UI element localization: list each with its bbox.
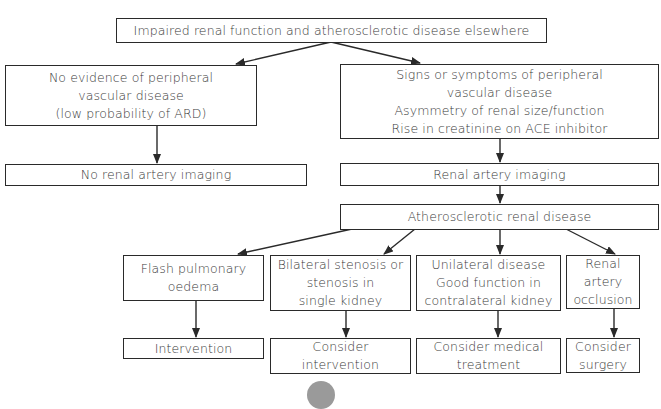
subtype-line: occlusion [573, 291, 632, 309]
action-line: surgery [579, 356, 627, 374]
diagnosis-box: Atherosclerotic renal disease [340, 204, 659, 230]
subtype-box-occlusion: Renal artery occlusion [566, 255, 640, 309]
action-line: treatment [457, 356, 521, 374]
action-box-medical: Consider medical treatment [416, 338, 561, 374]
right-condition-line: vascular disease [447, 84, 553, 102]
left-condition-line: No evidence of peripheral [49, 69, 213, 87]
diagnosis-text: Atherosclerotic renal disease [408, 208, 592, 226]
subtype-line: contralateral kidney [425, 292, 553, 310]
right-condition-line: Signs or symptoms of peripheral [396, 66, 603, 84]
subtype-line: oedema [168, 278, 219, 296]
no-imaging-text: No renal artery imaging [81, 166, 231, 184]
action-line: intervention [302, 356, 379, 374]
right-condition-line: Rise in creatinine on ACE inhibitor [391, 120, 607, 138]
action-box-intervention: Intervention [123, 338, 264, 359]
action-line: Intervention [155, 340, 233, 358]
root-text: Impaired renal function and atherosclero… [134, 22, 530, 40]
subtype-line: Flash pulmonary [141, 260, 247, 278]
subtype-box-bilateral: Bilateral stenosis or stenosis in single… [270, 255, 411, 311]
action-line: Consider medical [434, 338, 544, 356]
imaging-text: Renal artery imaging [433, 166, 565, 184]
subtype-line: single kidney [299, 292, 383, 310]
action-box-consider-intervention: Consider intervention [270, 338, 411, 374]
imaging-box: Renal artery imaging [340, 163, 659, 186]
page-marker-circle [307, 381, 335, 409]
right-condition-box: Signs or symptoms of peripheral vascular… [340, 64, 659, 139]
root-box: Impaired renal function and atherosclero… [116, 18, 547, 43]
action-line: Consider [575, 338, 631, 356]
left-condition-line: vascular disease [78, 87, 184, 105]
action-box-surgery: Consider surgery [566, 338, 640, 373]
subtype-line: Unilateral disease [432, 256, 546, 274]
subtype-line: artery [584, 273, 623, 291]
no-imaging-box: No renal artery imaging [5, 164, 307, 186]
right-condition-line: Asymmetry of renal size/function [394, 102, 604, 120]
left-condition-line: (low probability of ARD) [55, 105, 206, 123]
left-condition-box: No evidence of peripheral vascular disea… [5, 65, 257, 126]
subtype-box-unilateral: Unilateral disease Good function in cont… [416, 255, 561, 311]
action-line: Consider [313, 338, 369, 356]
subtype-line: Renal [585, 255, 620, 273]
subtype-line: Good function in [436, 274, 541, 292]
subtype-box-flash: Flash pulmonary oedema [123, 255, 264, 301]
subtype-line: stenosis in [307, 274, 375, 292]
subtype-line: Bilateral stenosis or [278, 256, 404, 274]
